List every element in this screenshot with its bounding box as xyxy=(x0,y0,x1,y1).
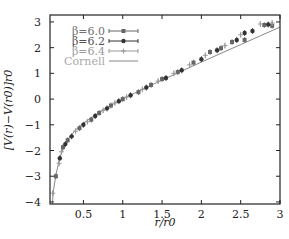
x-tick-label: 2.5 xyxy=(232,208,250,221)
data-point xyxy=(89,118,93,122)
data-point xyxy=(149,83,153,87)
data-point xyxy=(58,156,62,160)
data-point xyxy=(258,22,263,27)
data-point xyxy=(199,57,203,61)
legend-label: Cornell xyxy=(64,55,105,68)
data-point xyxy=(57,161,62,166)
legend-marker xyxy=(121,39,125,43)
y-tick-label: 1 xyxy=(34,67,41,80)
x-tick-label: 3 xyxy=(277,208,284,221)
data-point xyxy=(93,114,97,118)
data-point xyxy=(66,138,70,142)
y-tick-label: 0 xyxy=(34,93,41,106)
data-point xyxy=(222,43,227,48)
data-point xyxy=(230,40,234,44)
data-point xyxy=(105,106,109,110)
data-point xyxy=(192,61,196,65)
x-tick-label: 0.5 xyxy=(75,208,93,221)
data-point xyxy=(219,46,223,50)
data-point xyxy=(73,129,78,134)
data-point xyxy=(136,90,140,94)
data-point xyxy=(243,38,247,42)
data-point xyxy=(160,77,164,81)
x-tick-label: 1 xyxy=(119,208,126,221)
y-tick-label: −2 xyxy=(25,145,41,158)
data-point xyxy=(50,191,55,196)
data-point xyxy=(77,126,81,130)
data-point xyxy=(180,68,184,72)
y-tick-label: 2 xyxy=(34,42,41,55)
data-point xyxy=(109,104,113,108)
data-point xyxy=(208,50,212,54)
y-axis-ticks: −4−3−2−10123 xyxy=(25,16,280,209)
x-axis-label: r/r0 xyxy=(154,216,175,229)
y-tick-label: −1 xyxy=(25,119,41,132)
x-axis-ticks: 0.511.522.53 xyxy=(75,15,284,221)
data-point xyxy=(54,174,58,178)
x-tick-label: 2 xyxy=(198,208,205,221)
data-point xyxy=(250,29,254,33)
data-point xyxy=(235,38,239,42)
data-point xyxy=(262,23,266,27)
y-tick-label: −3 xyxy=(25,170,41,183)
data-point xyxy=(69,134,73,138)
legend-marker xyxy=(121,49,126,54)
chart: 0.511.522.53 −4−3−2−10123 r/r0 [V(r)−V(r… xyxy=(0,0,289,239)
data-point xyxy=(215,48,219,52)
data-point xyxy=(85,119,90,124)
data-point xyxy=(203,53,208,58)
data-point xyxy=(81,123,85,127)
legend-marker xyxy=(122,29,126,33)
legend: β=6.0β=6.2β=6.4Cornell xyxy=(64,25,138,68)
data-point xyxy=(97,111,101,115)
data-point xyxy=(176,70,180,74)
y-tick-label: 3 xyxy=(34,16,41,29)
data-point xyxy=(63,142,67,146)
data-point xyxy=(164,76,168,80)
y-axis-label: [V(r)−V(r0)]r0 xyxy=(2,70,15,151)
y-tick-label: −4 xyxy=(25,196,41,209)
data-point xyxy=(121,97,125,101)
